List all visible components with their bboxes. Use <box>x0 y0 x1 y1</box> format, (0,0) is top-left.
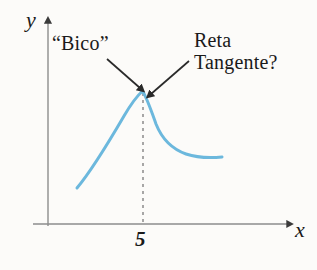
figure-canvas: y x “Bico” RetaTangente? 5 <box>0 0 317 270</box>
reta-tangente-arrow <box>151 61 189 94</box>
annotation-reta-tangente-label: RetaTangente? <box>194 30 278 73</box>
annotation-reta-tangente-line2: Tangente? <box>194 52 278 74</box>
y-axis-label: y <box>26 8 36 32</box>
x-axis-label: x <box>295 218 305 242</box>
curve-path <box>77 91 222 188</box>
x-tick-label-5: 5 <box>135 228 146 251</box>
bico-arrow <box>107 59 140 88</box>
annotation-bico-label: “Bico” <box>52 33 109 55</box>
annotation-reta-tangente-line1: Reta <box>194 29 231 51</box>
